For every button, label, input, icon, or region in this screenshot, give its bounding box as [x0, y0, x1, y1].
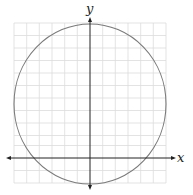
x-axis-right-arrow-icon — [171, 156, 176, 160]
y-axis-top-arrow-icon — [88, 17, 92, 22]
y-axis-label: y — [85, 1, 94, 16]
coordinate-plane: x y — [0, 0, 193, 195]
x-axis-left-arrow-icon — [6, 156, 11, 160]
y-axis-bottom-arrow-icon — [88, 185, 92, 190]
x-axis-label: x — [177, 150, 185, 165]
